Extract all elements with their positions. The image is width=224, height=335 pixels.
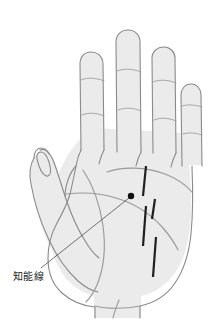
annotation-label-text: 知能線 bbox=[13, 271, 44, 283]
little-finger-shape bbox=[181, 84, 202, 165]
middle-finger-shape bbox=[116, 30, 141, 150]
ring-finger-shape bbox=[152, 47, 176, 152]
palmistry-figure: 知能線 bbox=[0, 0, 224, 335]
hand-illustration bbox=[0, 0, 224, 335]
annotation-marker-dot bbox=[128, 193, 134, 199]
index-finger-shape bbox=[80, 52, 104, 148]
